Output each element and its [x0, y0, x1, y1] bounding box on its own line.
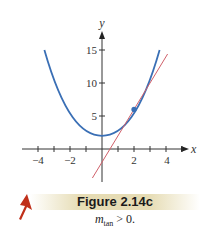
y-axis: 5 10 15 y [86, 16, 105, 182]
figure-caption: mtan > 0. [30, 212, 200, 228]
x-tick-label: −4 [32, 154, 44, 166]
y-tick-label: 10 [86, 77, 98, 89]
caption-variable: m [95, 212, 104, 226]
x-axis: −4 −2 2 4 x [22, 142, 197, 166]
x-tick-label: 2 [131, 154, 137, 166]
y-axis-label: y [98, 16, 105, 30]
x-tick-label: 4 [164, 154, 170, 166]
y-tick-label: 5 [92, 110, 98, 122]
caption-text: > 0. [113, 212, 135, 226]
tangent-point [131, 107, 136, 112]
x-axis-label: x [190, 142, 197, 156]
graph: −4 −2 2 4 x 5 10 15 y [0, 0, 203, 190]
pointer-arrow-icon [14, 192, 36, 222]
y-tick-label: 15 [86, 44, 98, 56]
caption-subscript: tan [104, 219, 114, 228]
x-tick-label: −2 [64, 154, 76, 166]
figure-title: Figure 2.14c [30, 194, 200, 210]
y-axis-arrow-icon [99, 31, 105, 39]
